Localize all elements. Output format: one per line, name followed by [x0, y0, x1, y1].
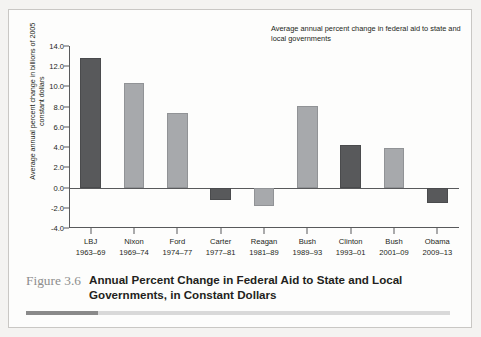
bar-reagan-4	[254, 188, 275, 206]
x-label-name: Nixon	[124, 237, 143, 246]
x-axis-tick-label: Bush2001–09	[379, 236, 409, 258]
bar-ford-2	[167, 113, 188, 188]
x-label-years: 1993–01	[336, 247, 366, 258]
x-label-years: 1981–89	[249, 247, 279, 258]
y-axis-tick-mark	[64, 106, 69, 107]
y-axis-tick-mark	[64, 46, 69, 47]
x-axis-tick-mark	[220, 228, 221, 234]
plot-region: 14.012.010.08.06.04.02.00.0-2.0-4.0LBJ19…	[69, 46, 459, 228]
x-axis-tick-label: Reagan1981–89	[249, 236, 279, 258]
x-axis-tick-mark	[394, 228, 395, 234]
x-axis-tick-label: LBJ1963–69	[76, 236, 106, 258]
bar-lbj-0	[80, 58, 101, 187]
bar-clinton-6	[340, 145, 361, 187]
x-label-years: 1974–77	[163, 247, 193, 258]
y-axis-tick-mark	[64, 187, 69, 188]
x-label-years: 2001–09	[379, 247, 409, 258]
bar-bush-7	[384, 148, 405, 187]
y-axis-tick-mark	[64, 207, 69, 208]
x-axis-tick-mark	[264, 228, 265, 234]
x-label-years: 1977–81	[206, 247, 236, 258]
x-label-years: 1989–93	[293, 247, 323, 258]
legend-text: Average annual percent change in federal…	[271, 24, 461, 43]
x-label-name: Obama	[425, 237, 450, 246]
x-axis-tick-label: Nixon1969–74	[119, 236, 149, 258]
x-label-name: Ford	[170, 237, 186, 246]
x-axis-tick-label: Bush1989–93	[293, 236, 323, 258]
bar-obama-8	[427, 188, 448, 203]
x-axis-tick-mark	[307, 228, 308, 234]
bar-bush-5	[297, 106, 318, 188]
y-axis-tick-mark	[64, 66, 69, 67]
x-label-name: Clinton	[339, 237, 363, 246]
x-axis-tick-mark	[177, 228, 178, 234]
x-axis-tick-mark	[437, 228, 438, 234]
x-label-name: Bush	[385, 237, 402, 246]
y-axis-tick-mark	[64, 228, 69, 229]
x-axis-tick-label: Ford1974–77	[163, 236, 193, 258]
y-axis-title-line1: Average annual percent change in billion…	[28, 41, 37, 180]
bar-carter-3	[210, 188, 231, 200]
x-axis-tick-mark	[134, 228, 135, 234]
y-axis-tick-mark	[64, 86, 69, 87]
x-label-years: 1969–74	[119, 247, 149, 258]
figure-title: Annual Percent Change in Federal Aid to …	[89, 273, 419, 302]
x-axis-tick-mark	[90, 228, 91, 234]
x-axis-tick-label: Carter1977–81	[206, 236, 236, 258]
x-label-name: Reagan	[251, 237, 278, 246]
x-axis-tick-label: Obama2009–13	[423, 236, 453, 258]
x-label-name: Carter	[210, 237, 231, 246]
figure-number: Figure 3.6	[26, 273, 81, 289]
bar-nixon-1	[124, 83, 145, 187]
caption-rule	[26, 311, 450, 315]
caption-line: Figure 3.6 Annual Percent Change in Fede…	[26, 273, 461, 302]
y-axis-title: Average annual percent change in billion…	[28, 21, 46, 181]
y-axis-tick-mark	[64, 126, 69, 127]
x-label-name: LBJ	[84, 237, 97, 246]
figure-page: Average annual percent change in billion…	[0, 0, 481, 337]
y-axis-line	[69, 46, 70, 228]
figure-caption: Figure 3.6 Annual Percent Change in Fede…	[9, 267, 471, 327]
x-label-years: 1963–69	[76, 247, 106, 258]
chart-legend: Average annual percent change in federal…	[271, 24, 463, 44]
x-axis-tick-mark	[350, 228, 351, 234]
y-axis-tick-mark	[64, 167, 69, 168]
figure-frame: Average annual percent change in billion…	[8, 9, 472, 328]
x-label-years: 2009–13	[423, 247, 453, 258]
x-axis-tick-label: Clinton1993–01	[336, 236, 366, 258]
chart-area: Average annual percent change in billion…	[9, 10, 471, 268]
y-axis-tick-mark	[64, 147, 69, 148]
x-label-name: Bush	[299, 237, 316, 246]
